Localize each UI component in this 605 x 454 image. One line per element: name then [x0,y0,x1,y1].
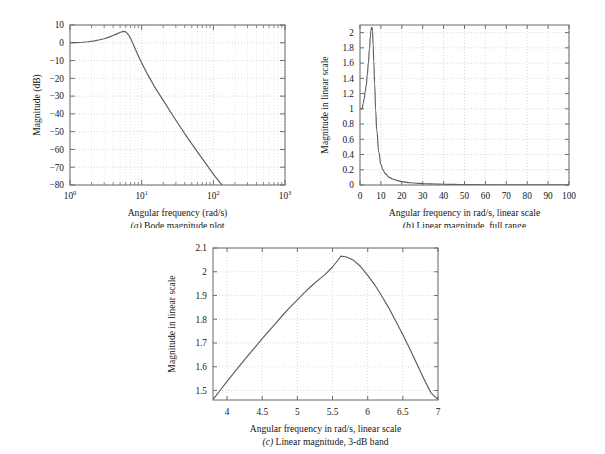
figure-b-linear-full-range: 010203040506070809010000.20.40.60.811.21… [300,0,605,228]
svg-text:−20: −20 [49,74,64,84]
svg-text:1.2: 1.2 [342,89,354,99]
plot-c-ylabel: Magnitude in linear scale [166,275,177,372]
svg-text:2: 2 [202,267,207,277]
plot-b-ylabel: Magnitude in linear scale [319,56,330,153]
figure-a-bode-magnitude: 100101102103100−10−20−30−40−50−60−70−80A… [0,0,300,228]
svg-text:0.2: 0.2 [342,165,354,175]
svg-text:100: 100 [64,189,77,201]
svg-text:5.5: 5.5 [327,407,339,417]
svg-text:70: 70 [502,191,512,201]
svg-text:4: 4 [225,407,230,417]
plot-a-xlabel: Angular frequency (rad/s) [128,207,228,219]
svg-text:102: 102 [207,189,220,201]
plot-b-xlabel: Angular frequency in rad/s, linear scale [389,207,540,218]
svg-text:80: 80 [523,191,533,201]
svg-text:−70: −70 [49,163,64,173]
plot-a-x-ticklabels: 100101102103 [64,189,292,201]
plot-a-ylabel: Magnitude (dB) [31,74,43,136]
svg-text:−30: −30 [49,91,64,101]
svg-text:1.4: 1.4 [342,74,354,84]
svg-text:1: 1 [349,104,354,114]
svg-text:1.7: 1.7 [195,338,207,348]
svg-text:1.9: 1.9 [195,291,207,301]
svg-text:−40: −40 [49,109,64,119]
plot-c-grid [213,248,438,400]
svg-text:1.8: 1.8 [342,43,354,53]
svg-text:−10: −10 [49,56,64,66]
plot-a-svg: 100101102103100−10−20−30−40−50−60−70−80A… [0,0,300,228]
svg-text:−80: −80 [49,180,64,190]
plot-b-svg: 010203040506070809010000.20.40.60.811.21… [300,0,605,228]
figure-c-linear-3db-band: 44.555.566.571.51.61.71.81.922.1Angular … [140,228,470,454]
svg-text:−50: −50 [49,127,64,137]
plot-c-frame [213,248,438,400]
plot-b-x-ticklabels: 0102030405060708090100 [358,191,577,201]
svg-text:100: 100 [562,191,576,201]
plot-c-x-ticklabels: 44.555.566.57 [225,407,441,417]
plot-a-grid [70,25,285,185]
svg-text:0: 0 [59,38,64,48]
svg-text:0: 0 [358,191,363,201]
svg-text:−60: −60 [49,145,64,155]
svg-text:10: 10 [376,191,386,201]
svg-text:1.6: 1.6 [195,362,207,372]
svg-text:90: 90 [543,191,553,201]
svg-text:10: 10 [55,20,65,30]
svg-text:0.6: 0.6 [342,135,354,145]
svg-text:1.5: 1.5 [195,386,207,396]
svg-text:7: 7 [436,407,441,417]
svg-text:101: 101 [135,189,148,201]
svg-text:40: 40 [439,191,449,201]
svg-text:6: 6 [365,407,370,417]
svg-text:20: 20 [397,191,407,201]
plot-a-y-ticklabels: 100−10−20−30−40−50−60−70−80 [49,20,64,190]
svg-text:0.8: 0.8 [342,119,354,129]
svg-text:1.8: 1.8 [195,315,207,325]
svg-text:1.6: 1.6 [342,58,354,68]
plot-a-curve [70,31,285,228]
svg-text:6.5: 6.5 [397,407,409,417]
svg-text:0.4: 0.4 [342,150,354,160]
plot-c-ticks [213,248,438,400]
plot-c-caption: (c) Linear magnitude, 3-dB band [262,436,388,448]
plot-c-curve [213,256,438,399]
plot-a-caption: (a) Bode magnitude plot [130,220,224,228]
plot-c-xlabel: Angular frequency in rad/s, linear scale [250,423,401,434]
svg-text:2.1: 2.1 [195,243,207,253]
plot-c-svg: 44.555.566.571.51.61.71.81.922.1Angular … [140,228,470,454]
svg-text:50: 50 [460,191,470,201]
plot-b-grid [360,25,569,185]
svg-text:30: 30 [418,191,428,201]
svg-text:60: 60 [481,191,491,201]
plot-a-ticks [70,25,285,185]
plot-b-caption: (b) Linear magnitude, full range [403,220,526,228]
svg-text:0: 0 [349,180,354,190]
svg-text:4.5: 4.5 [256,407,268,417]
plot-b-y-ticklabels: 00.20.40.60.811.21.41.61.82 [342,28,354,190]
svg-text:103: 103 [279,189,292,201]
plot-c-y-ticklabels: 1.51.61.71.81.922.1 [195,243,207,395]
plot-a-frame [70,25,285,185]
svg-text:2: 2 [349,28,354,38]
svg-text:5: 5 [295,407,300,417]
